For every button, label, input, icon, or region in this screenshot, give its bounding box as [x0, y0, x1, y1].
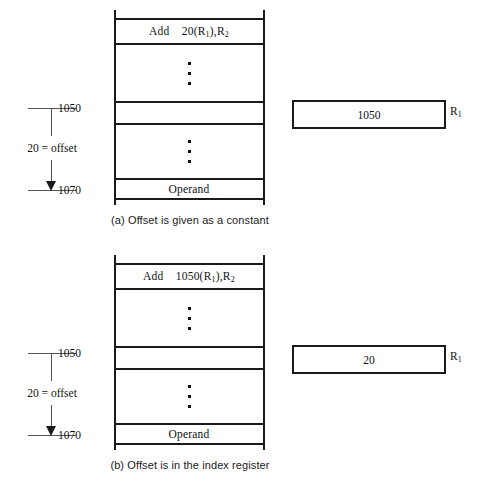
- memory-gap-ellipsis-upper: [115, 290, 263, 346]
- memory-divider: [115, 443, 263, 445]
- ellipsis-dot: [188, 150, 191, 153]
- address-label-bottom: 1070: [58, 184, 104, 196]
- ellipsis-dot: [188, 62, 191, 65]
- base-address-cell: [115, 348, 263, 368]
- memory-gap-ellipsis-upper: [115, 45, 263, 101]
- memory-gap-ellipsis-lower: [115, 125, 263, 178]
- ellipsis-dot: [188, 385, 191, 388]
- ellipsis-dot: [188, 82, 191, 85]
- memory-right-rail: [263, 255, 265, 450]
- offset-arrow-head: [46, 181, 56, 191]
- offset-label: 20 = offset: [4, 387, 100, 399]
- register-name-a: R1: [450, 105, 462, 119]
- register-name-b: R1: [450, 350, 462, 364]
- register-box-b: 20: [292, 345, 446, 374]
- ellipsis-dot: [188, 327, 191, 330]
- ellipsis-dot: [188, 317, 191, 320]
- offset-arrow-head: [46, 426, 56, 436]
- address-label-bottom: 1070: [58, 429, 104, 441]
- instruction-cell: Add 20(R1),R2: [115, 20, 263, 43]
- instruction-text: Add 1050(R1),R2: [143, 270, 235, 284]
- instruction-cell: Add 1050(R1),R2: [115, 265, 263, 288]
- offset-stem-upper: [51, 108, 52, 136]
- ellipsis-dot: [188, 160, 191, 163]
- instruction-text: Add 20(R1),R2: [149, 25, 229, 39]
- ellipsis-dot: [188, 307, 191, 310]
- memory-divider: [115, 198, 263, 200]
- ellipsis-dot: [188, 395, 191, 398]
- ellipsis-dot: [188, 140, 191, 143]
- memory-gap-ellipsis-lower: [115, 370, 263, 423]
- operand-cell: Operand: [115, 425, 263, 443]
- memory-right-rail: [263, 10, 265, 205]
- operand-label: Operand: [169, 183, 210, 195]
- register-box-a: 1050: [292, 100, 446, 129]
- figure-panel-b: Add 1050(R1),R2 Operand 20 = offset 1050…: [0, 245, 482, 490]
- ellipsis-dot: [188, 72, 191, 75]
- memory-column-a: Add 20(R1),R2 Operand: [114, 10, 265, 205]
- figure-panel-a: Add 20(R1),R2 Operand 20 = offset 1050: [0, 0, 482, 245]
- base-address-cell: [115, 103, 263, 123]
- panel-caption-b: (b) Offset is in the index register: [0, 459, 380, 471]
- address-label-top: 1050: [58, 347, 104, 359]
- operand-cell: Operand: [115, 180, 263, 198]
- panel-caption-a: (a) Offset is given as a constant: [0, 214, 380, 226]
- offset-stem-upper: [51, 353, 52, 381]
- ellipsis-dot: [188, 405, 191, 408]
- memory-column-b: Add 1050(R1),R2 Operand: [114, 255, 265, 450]
- register-value: 1050: [358, 109, 381, 121]
- register-value: 20: [363, 354, 375, 366]
- offset-label: 20 = offset: [4, 142, 100, 154]
- operand-label: Operand: [169, 428, 210, 440]
- address-label-top: 1050: [58, 102, 104, 114]
